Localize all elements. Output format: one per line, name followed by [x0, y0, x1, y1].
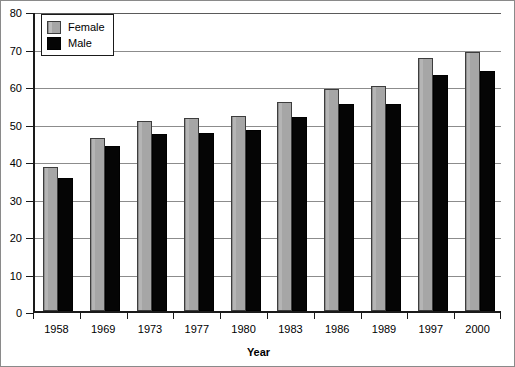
- x-axis: 1958196919731977198019831986198919972000: [33, 313, 501, 347]
- legend-item-male: Male: [47, 35, 105, 51]
- y-axis-label: 30: [10, 196, 22, 207]
- x-axis-tick: [361, 313, 362, 319]
- x-axis-label-1989: 1989: [372, 323, 396, 335]
- y-axis-tick: [26, 126, 33, 127]
- bar-female-1977: [184, 118, 199, 312]
- legend-label-male: Male: [68, 38, 92, 49]
- legend-swatch-male-icon: [47, 37, 61, 50]
- y-axis-label: 0: [16, 308, 22, 319]
- y-axis-tick: [26, 201, 33, 202]
- y-axis-label: 20: [10, 233, 22, 244]
- x-axis-tick: [220, 313, 221, 319]
- x-axis-tick: [173, 313, 174, 319]
- bar-female-1969: [90, 138, 105, 311]
- bar-male-1958: [58, 178, 73, 311]
- bar-male-1977: [199, 133, 214, 312]
- bar-female-1958: [43, 167, 58, 311]
- y-axis-label: 70: [10, 46, 22, 57]
- x-axis-label-1977: 1977: [185, 323, 209, 335]
- x-axis-tick: [454, 313, 455, 319]
- y-axis-tick: [26, 238, 33, 239]
- x-axis-tick: [407, 313, 408, 319]
- x-axis-label-2000: 2000: [465, 323, 489, 335]
- x-axis-tick: [314, 313, 315, 319]
- y-axis-label: 40: [10, 158, 22, 169]
- y-axis-label: 10: [10, 271, 22, 282]
- y-axis-label: 50: [10, 121, 22, 132]
- x-axis-tick: [127, 313, 128, 319]
- bar-male-1986: [339, 104, 354, 311]
- x-axis-label-1973: 1973: [138, 323, 162, 335]
- legend-swatch-female-icon: [47, 21, 61, 34]
- x-axis-label-1997: 1997: [419, 323, 443, 335]
- bar-female-1983: [277, 102, 292, 311]
- chart-legend: Female Male: [41, 14, 114, 56]
- plot-area: [33, 13, 501, 313]
- legend-item-female: Female: [47, 19, 105, 35]
- bar-male-1989: [386, 104, 401, 311]
- bar-male-1997: [433, 75, 448, 311]
- x-axis-label-1986: 1986: [325, 323, 349, 335]
- bar-male-2000: [480, 71, 495, 311]
- x-axis-label-1980: 1980: [231, 323, 255, 335]
- legend-label-female: Female: [68, 22, 105, 33]
- x-axis-title: Year: [1, 346, 515, 358]
- bar-female-1989: [371, 86, 386, 311]
- x-axis-label-1958: 1958: [44, 323, 68, 335]
- bar-female-1980: [231, 116, 246, 311]
- y-axis: 01020304050607080: [1, 13, 33, 313]
- y-axis-label: 80: [10, 8, 22, 19]
- bar-female-1986: [324, 89, 339, 311]
- bar-male-1969: [105, 146, 120, 311]
- x-axis-tick: [267, 313, 268, 319]
- bar-chart-figure: 01020304050607080 1958196919731977198019…: [0, 0, 515, 367]
- bar-female-1973: [137, 121, 152, 312]
- y-axis-tick: [26, 163, 33, 164]
- bar-male-1973: [152, 134, 167, 311]
- x-axis-tick: [80, 313, 81, 319]
- y-axis-tick: [26, 313, 33, 314]
- y-axis-tick: [26, 276, 33, 277]
- y-axis-tick: [26, 13, 33, 14]
- bar-male-1980: [246, 130, 261, 311]
- x-axis-label-1969: 1969: [91, 323, 115, 335]
- y-axis-label: 60: [10, 83, 22, 94]
- x-axis-tick: [500, 313, 501, 319]
- x-axis-tick: [33, 313, 34, 319]
- y-axis-tick: [26, 51, 33, 52]
- x-axis-label-1983: 1983: [278, 323, 302, 335]
- bar-male-1983: [292, 117, 307, 311]
- bar-female-2000: [465, 52, 480, 312]
- bar-female-1997: [418, 58, 433, 312]
- y-axis-tick: [26, 88, 33, 89]
